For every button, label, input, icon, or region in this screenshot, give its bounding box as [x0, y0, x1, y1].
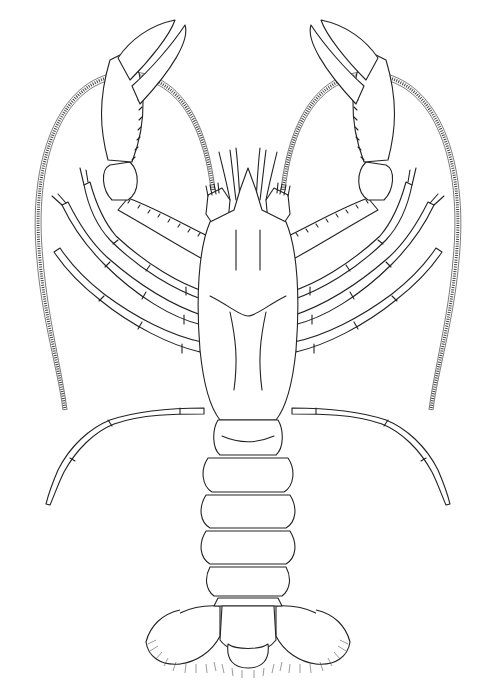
crayfish-drawing	[0, 0, 496, 690]
illustration-canvas: crayfish dorsal view line drawing	[0, 0, 496, 690]
abdomen	[201, 420, 295, 606]
